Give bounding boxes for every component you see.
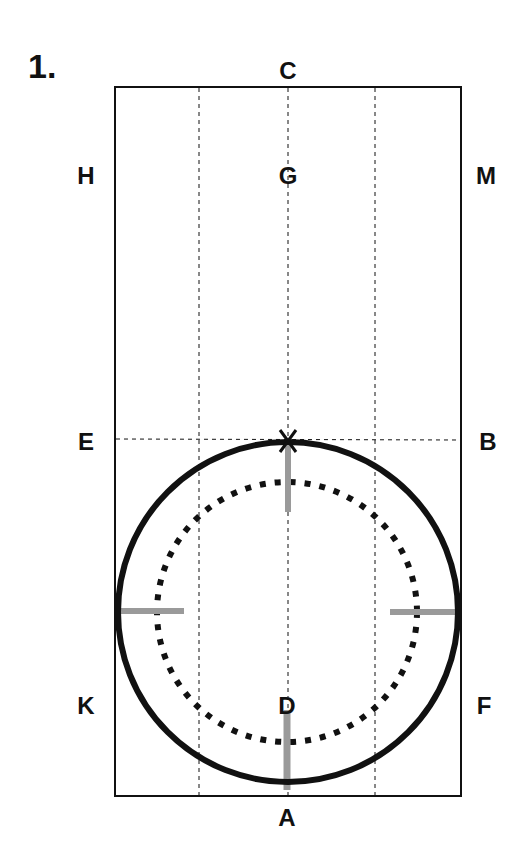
label-a: A	[278, 804, 295, 831]
label-b: B	[479, 428, 496, 455]
label-f: F	[477, 692, 492, 719]
label-h: H	[77, 162, 94, 189]
pattern-diagram: 1. C H G M E B K D F A	[0, 0, 530, 866]
label-g: G	[279, 162, 298, 189]
label-d: D	[278, 692, 295, 719]
label-e: E	[78, 428, 94, 455]
figure-number: 1.	[28, 47, 56, 85]
label-m: M	[476, 162, 496, 189]
label-k: K	[77, 692, 95, 719]
label-c: C	[279, 57, 296, 84]
